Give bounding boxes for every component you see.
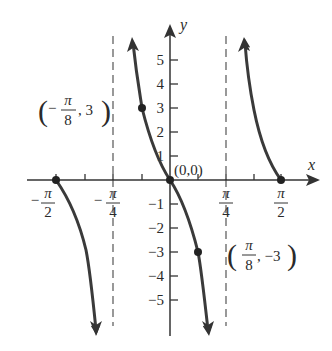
svg-text:8: 8	[64, 112, 72, 128]
svg-text:, 3: , 3	[78, 102, 93, 118]
svg-text:3: 3	[157, 100, 165, 116]
svg-text:2: 2	[157, 124, 165, 140]
tangent-graph: 5 4 3 2 1 −1 −2 −3 −4 −5 y x − π 2 − π 4…	[0, 0, 332, 351]
svg-text:−5: −5	[148, 292, 164, 308]
annotation-neg-pi-over-8: ( − π 8 , 3 )	[38, 92, 111, 128]
point-pi-over-2	[277, 176, 285, 184]
origin-label: (0,0)	[174, 162, 203, 179]
svg-text:π: π	[109, 185, 117, 201]
svg-text:(: (	[38, 94, 48, 128]
svg-text:): )	[101, 94, 111, 128]
x-axis-label: x	[307, 156, 315, 173]
point-neg-pi-over-2	[52, 176, 60, 184]
annotation-pi-over-8: ( π 8 , −3 )	[227, 237, 297, 273]
svg-text:π: π	[64, 92, 72, 108]
curve-left-branch	[56, 180, 96, 330]
svg-text:, −3: , −3	[257, 248, 280, 264]
svg-text:−4: −4	[148, 268, 164, 284]
svg-text:−1: −1	[148, 196, 164, 212]
svg-text:−2: −2	[148, 220, 164, 236]
svg-text:2: 2	[277, 204, 285, 220]
svg-text:5: 5	[157, 52, 165, 68]
point-origin	[166, 176, 174, 184]
svg-text:−: −	[94, 192, 102, 208]
svg-text:8: 8	[245, 257, 253, 273]
svg-text:4: 4	[222, 204, 230, 220]
svg-text:−: −	[48, 100, 56, 116]
curve-arrow-up-right-icon	[238, 37, 250, 52]
svg-text:(: (	[227, 238, 237, 272]
point-neg-pi-over-8	[138, 104, 146, 112]
svg-text:π: π	[277, 185, 285, 201]
svg-text:π: π	[44, 185, 52, 201]
svg-text:4: 4	[157, 76, 165, 92]
y-axis-label: y	[178, 16, 188, 34]
point-pi-over-8	[194, 248, 202, 256]
svg-text:−3: −3	[148, 244, 164, 260]
svg-text:π: π	[222, 185, 230, 201]
svg-text:2: 2	[44, 204, 52, 220]
svg-text:π: π	[245, 237, 253, 253]
curve-right-branch	[245, 43, 281, 180]
svg-text:): )	[287, 238, 297, 272]
svg-text:4: 4	[109, 204, 117, 220]
svg-text:−: −	[31, 192, 39, 208]
curves	[56, 43, 281, 330]
